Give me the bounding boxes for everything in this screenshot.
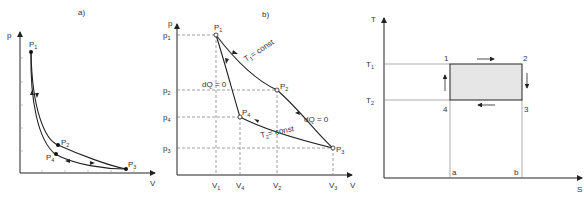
arrow-icon	[90, 161, 95, 165]
arrow-icon	[254, 119, 259, 123]
panel-b-point-p3	[331, 146, 335, 150]
panel-c-ytick-t2: T2	[366, 96, 374, 106]
panel-a-expansion-curve	[31, 52, 126, 169]
panel-b-xtick-v3: V3	[329, 181, 337, 191]
panel-a-x-label: V	[150, 179, 156, 188]
arrow-icon	[232, 50, 238, 54]
panel-c-ytick-t1: T1	[366, 60, 374, 70]
arrow-icon	[35, 93, 39, 98]
panel-a-ticks	[20, 58, 134, 173]
panel-a-label-p1: P1	[29, 40, 37, 50]
panel-b-label-t2-const: T2= const	[260, 124, 296, 141]
panel-b-label-dq-left: dQ = 0	[202, 80, 227, 89]
panel-c-xtick-a: a	[452, 168, 457, 177]
panel-a-point-p1	[29, 50, 33, 54]
panel-c-corner-1: 1	[444, 54, 449, 63]
panel-b-adiabat-left	[216, 35, 240, 117]
panel-b-xtick-v4: V4	[236, 181, 244, 191]
panel-a-label-p3: P3	[128, 160, 136, 170]
carnot-cycle-diagram: a) p V P1 P2 P3 P4 b)	[0, 0, 584, 197]
panel-b-xtick-v2: V2	[273, 181, 281, 191]
panel-b-label-t1-const: T1= const	[242, 37, 277, 64]
panel-b-pv-diagram: b) p V p1 p2 p4 p3 V1 V4 V2 V3	[163, 10, 356, 191]
panel-a-point-p2	[56, 143, 60, 147]
panel-c-cycle-area	[450, 64, 522, 100]
panel-b-label-dq-right: dQ = 0	[304, 115, 329, 124]
panel-b-point-p1	[214, 33, 218, 37]
panel-b-caption: b)	[262, 10, 269, 19]
panel-a-y-label: p	[7, 31, 12, 40]
panel-c-xtick-b: b	[514, 168, 519, 177]
panel-c-corner-3: 3	[524, 105, 529, 114]
panel-b-ytick-p4: p4	[163, 113, 171, 123]
panel-a-pv-diagram: a) p V P1 P2 P3 P4	[7, 8, 156, 188]
panel-b-ytick-p1: p1	[163, 31, 171, 41]
panel-b-x-label: V	[350, 181, 356, 190]
panel-c-ts-diagram: T S T1 T2 a b 1 2 3 4	[366, 15, 582, 194]
panel-b-label-p3: P3	[336, 145, 344, 155]
panel-b-label-p1: P1	[214, 23, 222, 33]
panel-a-compression-curve	[31, 52, 126, 169]
panel-c-corner-4: 4	[443, 105, 448, 114]
panel-b-ytick-p3: p3	[163, 144, 171, 154]
panel-a-label-p2: P2	[61, 138, 69, 148]
arrow-icon	[225, 58, 229, 64]
panel-b-y-label: p	[168, 19, 173, 28]
panel-a-caption: a)	[78, 8, 85, 17]
panel-a-point-p4	[54, 152, 58, 156]
panel-c-x-label: S	[577, 185, 582, 194]
panel-c-y-label: T	[371, 15, 376, 24]
panel-b-label-p2: P2	[280, 82, 288, 92]
panel-b-ytick-p2: p2	[163, 86, 171, 96]
panel-a-label-p4: P4	[46, 153, 54, 163]
panel-b-xtick-v1: V1	[212, 181, 220, 191]
panel-b-label-p4: P4	[242, 108, 250, 118]
panel-b-point-p2	[275, 88, 279, 92]
panel-c-corner-2: 2	[523, 54, 528, 63]
